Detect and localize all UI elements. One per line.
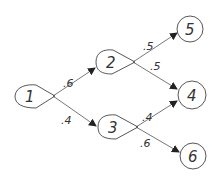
- edge-2-5: [133, 33, 177, 62]
- edge-1-3: [53, 96, 96, 126]
- node-3-shape: [98, 115, 138, 139]
- edge-label-2-4: .5: [150, 60, 161, 73]
- node-1-label: 1: [25, 88, 35, 106]
- node-2-label: 2: [106, 54, 116, 72]
- node-1-shape: [15, 85, 55, 108]
- edge-1-2: [53, 68, 95, 96]
- node-4-label: 4: [187, 87, 197, 105]
- edge-label-3-6: .6: [140, 137, 151, 150]
- decision-tree-diagram: .6 .4 .5 .5 .4 .6 1 2 3 5 4 6: [0, 0, 220, 181]
- node-5-label: 5: [185, 21, 195, 39]
- edge-label-1-2: .6: [63, 77, 74, 90]
- node-6-label: 6: [188, 148, 198, 166]
- edge-label-1-3: .4: [61, 114, 72, 127]
- node-3-label: 3: [108, 119, 118, 137]
- edge-label-2-5: .5: [143, 40, 154, 53]
- edge-label-3-4: .4: [142, 111, 153, 124]
